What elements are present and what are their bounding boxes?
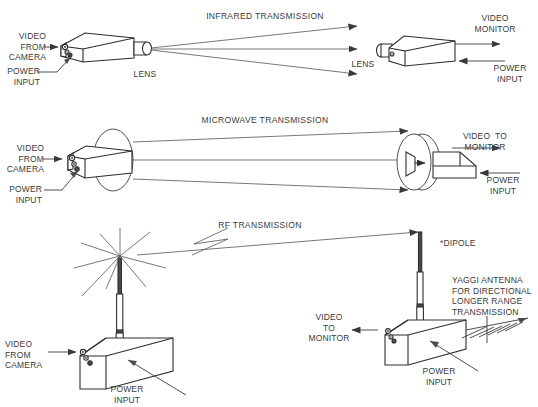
- section-title-infrared: INFRARED TRANSMISSION: [190, 11, 340, 22]
- video-monitor-label: VIDEO MONITOR: [467, 13, 523, 34]
- rf-video-from-camera-label: VIDEO FROM CAMERA: [5, 339, 61, 371]
- infrared-beams: [151, 26, 357, 74]
- diagram-canvas: [0, 0, 538, 407]
- transmission-methods-diagram: INFRARED TRANSMISSION VIDEO FROM CAMERA …: [0, 0, 538, 407]
- microwave-transmitter: [43, 129, 133, 191]
- microwave-power-input-label: POWER INPUT: [0, 184, 42, 205]
- section-title-rf: RF TRANSMISSION: [190, 220, 330, 231]
- rf-receiver-unit: [352, 320, 478, 371]
- rf-transmitter-power-input-label: POWER INPUT: [103, 384, 151, 405]
- microwave-beams: [133, 131, 408, 190]
- microwave-receiver-power-input-label: POWER INPUT: [478, 175, 528, 196]
- rf-receiver-power-input-label: POWER INPUT: [415, 366, 463, 387]
- infrared-transmitter-lens-label: LENS: [125, 69, 165, 80]
- section-title-microwave: MICROWAVE TRANSMISSION: [180, 115, 350, 126]
- rf-video-to-monitor-label: VIDEO TO MONITOR: [303, 312, 355, 344]
- yaggi-antenna: [462, 316, 528, 343]
- dipole-label: *DIPOLE: [440, 238, 500, 249]
- infrared-receiver-power-input-label: POWER INPUT: [487, 63, 533, 84]
- yaggi-antenna-note: YAGGI ANTENNA FOR DIRECTIONAL LONGER RAN…: [452, 275, 538, 317]
- infrared-transmitter: [37, 33, 152, 72]
- microwave-video-from-camera-label: VIDEO FROM CAMERA: [0, 143, 44, 175]
- infrared-video-from-camera-label: VIDEO FROM CAMERA: [0, 31, 46, 63]
- microwave-video-to-monitor-label: VIDEO TO MONITOR: [453, 131, 517, 152]
- infrared-receiver: [377, 36, 506, 66]
- infrared-receiver-lens-label: LENS: [343, 59, 383, 70]
- rf-link-lightning-bolt: [137, 228, 418, 255]
- infrared-power-input-label: POWER INPUT: [0, 66, 40, 87]
